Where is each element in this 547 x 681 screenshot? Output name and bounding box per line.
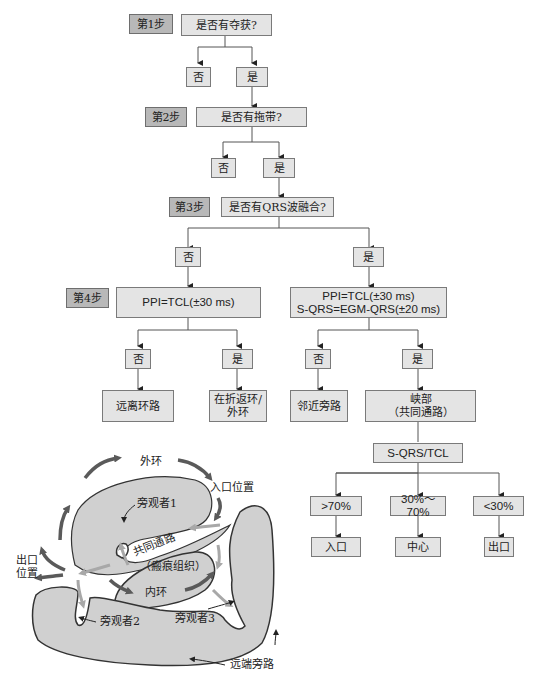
remote-bystander-label: 远端旁路: [230, 658, 274, 671]
entry-site-label: 入口位置: [210, 481, 254, 494]
inner-loop-label: 内环: [145, 586, 167, 599]
bystander2-label: 旁观者2: [100, 615, 140, 628]
outer-loop-label: 外环: [140, 455, 162, 468]
reentry-circuit-diagram: [0, 0, 547, 681]
scar-tissue-label: （瘢痕组织）: [140, 560, 206, 573]
bystander1-label: 旁观者1: [137, 497, 177, 510]
exit-site-label: 出口 位置: [16, 554, 38, 580]
bystander3-label: 旁观者3: [175, 612, 215, 625]
